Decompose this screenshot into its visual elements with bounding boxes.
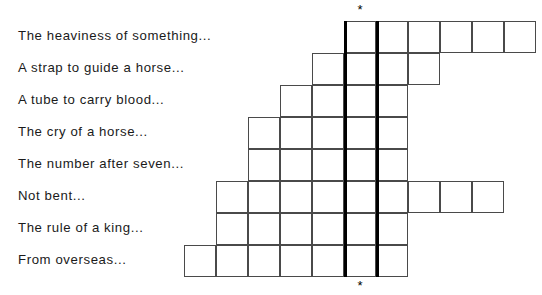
grid-cell-r7-c4[interactable] <box>312 213 344 245</box>
grid-cell-r1-c7[interactable] <box>408 21 440 53</box>
grid-cell-r8-c4[interactable] <box>312 245 344 277</box>
grid-cell-r3-c6[interactable] <box>376 85 408 117</box>
grid-cell-r8-c0[interactable] <box>184 245 216 277</box>
grid-cell-r6-c8[interactable] <box>440 181 472 213</box>
right-bold-rule <box>376 21 379 277</box>
grid-cell-r8-c6[interactable] <box>376 245 408 277</box>
grid-cell-r8-c2[interactable] <box>248 245 280 277</box>
grid-cell-r1-c6[interactable] <box>376 21 408 53</box>
grid-cell-r1-c5[interactable] <box>344 21 376 53</box>
grid-cell-r2-c6[interactable] <box>376 53 408 85</box>
top-asterisk-icon: * <box>350 3 370 16</box>
grid-cell-r4-c2[interactable] <box>248 117 280 149</box>
grid-cell-r6-c9[interactable] <box>472 181 504 213</box>
grid-cell-r3-c3[interactable] <box>280 85 312 117</box>
grid-cell-r6-c1[interactable] <box>216 181 248 213</box>
grid-cell-r4-c5[interactable] <box>344 117 376 149</box>
worksheet-page: The heaviness of something...A strap to … <box>0 0 542 295</box>
grid-cell-r8-c1[interactable] <box>216 245 248 277</box>
grid-cell-r2-c4[interactable] <box>312 53 344 85</box>
grid-cell-r6-c5[interactable] <box>344 181 376 213</box>
grid-cell-r5-c5[interactable] <box>344 149 376 181</box>
grid-cell-r7-c1[interactable] <box>216 213 248 245</box>
grid-cell-r7-c5[interactable] <box>344 213 376 245</box>
puzzle-grid: ** <box>0 0 542 295</box>
grid-cell-r1-c9[interactable] <box>472 21 504 53</box>
grid-cell-r5-c4[interactable] <box>312 149 344 181</box>
grid-cell-r6-c7[interactable] <box>408 181 440 213</box>
grid-cell-r5-c3[interactable] <box>280 149 312 181</box>
grid-cell-r4-c3[interactable] <box>280 117 312 149</box>
grid-cell-r2-c7[interactable] <box>408 53 440 85</box>
grid-cell-r6-c2[interactable] <box>248 181 280 213</box>
grid-cell-r6-c3[interactable] <box>280 181 312 213</box>
grid-cell-r7-c2[interactable] <box>248 213 280 245</box>
grid-cell-r3-c4[interactable] <box>312 85 344 117</box>
grid-cell-r4-c4[interactable] <box>312 117 344 149</box>
grid-cell-r5-c2[interactable] <box>248 149 280 181</box>
grid-cell-r7-c6[interactable] <box>376 213 408 245</box>
grid-cell-r7-c3[interactable] <box>280 213 312 245</box>
left-bold-rule <box>344 21 347 277</box>
grid-cell-r1-c8[interactable] <box>440 21 472 53</box>
grid-cell-r6-c4[interactable] <box>312 181 344 213</box>
grid-cell-r2-c5[interactable] <box>344 53 376 85</box>
grid-cell-r8-c5[interactable] <box>344 245 376 277</box>
grid-cell-r4-c6[interactable] <box>376 117 408 149</box>
grid-cell-r3-c5[interactable] <box>344 85 376 117</box>
grid-cell-r8-c3[interactable] <box>280 245 312 277</box>
bottom-asterisk-icon: * <box>350 279 370 292</box>
grid-cell-r6-c6[interactable] <box>376 181 408 213</box>
grid-cell-r1-c10[interactable] <box>504 21 536 53</box>
grid-cell-r5-c6[interactable] <box>376 149 408 181</box>
